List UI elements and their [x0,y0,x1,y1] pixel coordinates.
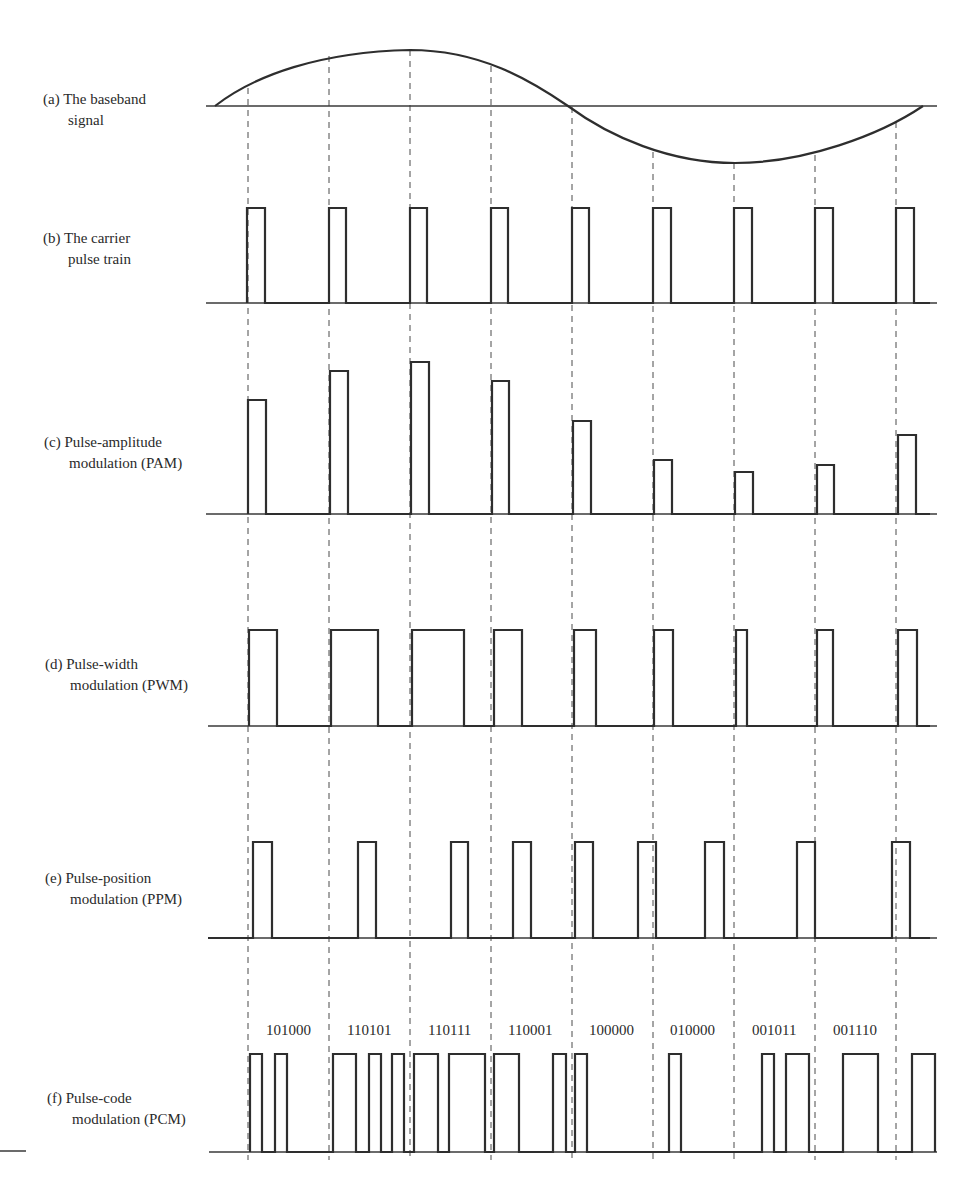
pcm-code-3: 110111 [428,1022,471,1038]
carrier-pulse-train [247,208,930,303]
pcm-code-6: 010000 [670,1022,715,1038]
ppm-pulses [208,842,930,938]
pcm-panel: 101000 110101 110111 110001 100000 01000… [0,1022,937,1152]
pcm-code-1: 101000 [266,1022,311,1038]
carrier-panel [206,208,937,303]
pcm-code-8: 001110 [833,1022,877,1038]
pcm-code-4: 110001 [508,1022,552,1038]
modulation-diagram: 101000 110101 110111 110001 100000 01000… [0,0,973,1194]
pcm-code-5: 100000 [589,1022,634,1038]
pcm-code-7: 001011 [752,1022,796,1038]
pcm-code-2: 110101 [347,1022,391,1038]
pwm-panel [208,630,937,726]
pwm-pulses [249,630,930,726]
baseband-panel [206,50,937,163]
pcm-bit-stream [250,1054,935,1152]
pam-pulses [248,362,930,514]
